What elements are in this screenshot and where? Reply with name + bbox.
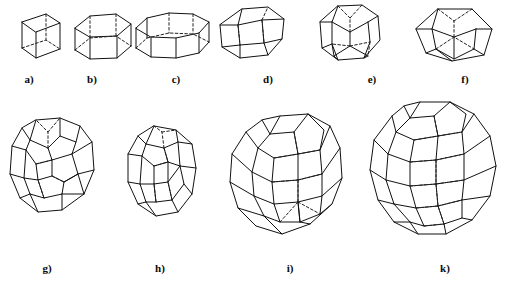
elongated-dodecahedron-drawing — [412, 3, 498, 67]
cube-drawing — [16, 8, 66, 66]
elongdodec-hidden-edges — [436, 9, 474, 49]
shape-cell-c: c) — [133, 6, 217, 66]
truncated-cuboctahedron-alt-drawing — [120, 122, 206, 224]
shape-cell-b: b) — [72, 6, 138, 66]
shape-cell-e: e) — [314, 2, 388, 68]
hexprism-hidden-edges — [75, 14, 131, 50]
truncated-octahedron-drawing — [216, 3, 292, 67]
shape-cell-h: h) — [120, 122, 206, 224]
truncated-rhombicuboctahedron-drawing — [224, 112, 350, 242]
shape-cell-k: k) — [358, 98, 508, 248]
truncated-cuboctahedron-drawing — [8, 116, 104, 224]
caption-i: i) — [270, 262, 310, 274]
caption-a: a) — [9, 73, 49, 85]
greatrhombi-hidden-edges — [410, 116, 464, 226]
polyhedra-figure: a) b) — [0, 0, 514, 289]
hexagonal-prism-drawing — [72, 6, 138, 66]
octprism-visible-edges — [136, 13, 209, 58]
caption-h: h) — [140, 262, 180, 274]
caption-e: e) — [352, 73, 392, 85]
caption-g: g) — [27, 262, 67, 274]
rhombicuboctahedron-drawing — [314, 2, 388, 68]
shape-cell-f: f) — [412, 3, 498, 67]
caption-b: b) — [72, 73, 112, 85]
truncoct-hidden-edges — [238, 7, 268, 45]
truncrhombi-hidden-edges — [272, 132, 322, 222]
caption-f: f) — [445, 73, 485, 85]
great-rhombicuboctahedron-drawing — [358, 98, 508, 248]
shape-cell-d: d) — [216, 3, 292, 67]
truncoct-visible-edges — [220, 7, 284, 58]
shape-cell-g: g) — [8, 116, 104, 224]
rhombicub-hidden-edges — [332, 5, 370, 56]
shape-cell-i: i) — [224, 112, 350, 242]
shape-cell-a: a) — [16, 8, 66, 66]
octagonal-prism-drawing — [133, 6, 217, 66]
trunccubo-h-visible-edges — [128, 126, 196, 216]
hexprism-visible-edges — [75, 14, 131, 59]
cube-visible-edges — [22, 14, 60, 58]
truncrhombi-visible-edges — [230, 114, 342, 234]
caption-c: c) — [156, 73, 196, 85]
caption-k: k) — [425, 262, 465, 274]
caption-d: d) — [248, 73, 288, 85]
trunccubo-g-visible-edges — [10, 118, 94, 212]
greatrhombi-visible-edges — [370, 102, 496, 234]
